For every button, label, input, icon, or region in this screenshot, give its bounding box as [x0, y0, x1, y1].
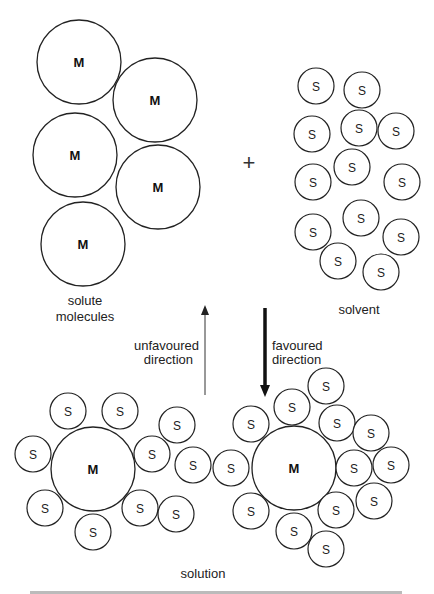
solute-molecule-label: M: [153, 180, 164, 195]
solvent-molecule-label: S: [355, 122, 363, 136]
favoured-label-line1: favoured: [272, 338, 323, 353]
solute-molecule: M: [33, 113, 117, 197]
solvent-molecules-group: SSSSSSSSSSSSS: [294, 68, 420, 290]
unfavoured-label-line2: direction: [144, 352, 193, 367]
solvent-molecule-label: S: [308, 128, 316, 142]
solvent-molecule: S: [344, 72, 380, 108]
solvent-molecule-label: S: [312, 80, 320, 94]
solvating-solvent-molecule-label: S: [322, 380, 330, 394]
solvating-solvent-molecule: S: [353, 415, 389, 451]
solute-label-line1: solute: [68, 293, 103, 308]
solvated-solute-molecule-label: M: [88, 462, 99, 477]
solvating-solvent-molecule: S: [50, 393, 86, 429]
solvent-molecule: S: [295, 214, 331, 250]
unfavoured-label-line1: unfavoured: [134, 338, 199, 353]
solvating-solvent-molecule-label: S: [288, 401, 296, 415]
solvating-solvent-molecule-label: S: [89, 526, 97, 540]
solute-molecule-label: M: [78, 237, 89, 252]
solvating-solvent-molecule: S: [75, 514, 111, 550]
solvating-solvent-molecule: S: [308, 531, 344, 567]
solvent-molecule: S: [341, 110, 377, 146]
solvated-solute-right: MSSSSSSSSSSSSS: [213, 368, 409, 567]
solvent-molecule: S: [295, 164, 331, 200]
solute-molecule: M: [113, 58, 197, 142]
solvent-molecule: S: [294, 116, 330, 152]
solute-label-line2: molecules: [56, 309, 115, 324]
solute-molecule-label: M: [74, 55, 85, 70]
solvating-solvent-molecule-label: S: [387, 459, 395, 473]
solvated-solute-left: MSSSSSSSSSS: [15, 393, 211, 550]
solvent-molecule-label: S: [357, 212, 365, 226]
solvating-solvent-molecule-label: S: [148, 448, 156, 462]
solvating-solvent-molecule-label: S: [136, 502, 144, 516]
solvating-solvent-molecule: S: [336, 450, 372, 486]
solvent-molecule: S: [320, 243, 356, 279]
solvent-label: solvent: [338, 302, 380, 317]
favoured-label-line2: direction: [272, 352, 321, 367]
solvating-solvent-molecule-label: S: [172, 508, 180, 522]
solvating-solvent-molecule-label: S: [350, 462, 358, 476]
solvent-molecule: S: [378, 113, 414, 149]
solution-label: solution: [181, 566, 226, 581]
solvating-solvent-molecule: S: [175, 447, 211, 483]
solvating-solvent-molecule: S: [319, 405, 355, 441]
solvating-solvent-molecule: S: [233, 406, 269, 442]
solvating-solvent-molecule-label: S: [247, 418, 255, 432]
solvating-solvent-molecule-label: S: [227, 462, 235, 476]
solvent-molecule-label: S: [358, 84, 366, 98]
solvating-solvent-molecule: S: [27, 490, 63, 526]
solvating-solvent-molecule: S: [102, 393, 138, 429]
solvation-diagram: MMMMM + SSSSSSSSSSSSS solute molecules s…: [0, 0, 434, 594]
solvating-solvent-molecule-label: S: [332, 504, 340, 518]
solvent-molecule-label: S: [309, 176, 317, 190]
solvating-solvent-molecule-label: S: [370, 495, 378, 509]
solvating-solvent-molecule-label: S: [64, 405, 72, 419]
solvating-solvent-molecule-label: S: [247, 505, 255, 519]
solvent-molecule-label: S: [392, 125, 400, 139]
solvent-molecule: S: [334, 149, 370, 185]
solvating-solvent-molecule: S: [159, 407, 195, 443]
solvating-solvent-molecule-label: S: [189, 459, 197, 473]
solvent-molecule-label: S: [334, 255, 342, 269]
solute-molecule-label: M: [70, 148, 81, 163]
solvated-solute-molecule: M: [51, 427, 135, 511]
solvent-molecule-label: S: [377, 266, 385, 280]
solute-molecule: M: [41, 202, 125, 286]
solvent-molecule-label: S: [309, 226, 317, 240]
solvating-solvent-molecule-label: S: [322, 543, 330, 557]
solvent-molecule-label: S: [398, 176, 406, 190]
solute-molecule: M: [37, 20, 121, 104]
solvating-solvent-molecule-label: S: [29, 448, 37, 462]
solvating-solvent-molecule: S: [356, 483, 392, 519]
solvating-solvent-molecule: S: [274, 389, 310, 425]
solvating-solvent-molecule-label: S: [116, 405, 124, 419]
solvating-solvent-molecule-label: S: [367, 427, 375, 441]
solvating-solvent-molecule: S: [308, 368, 344, 404]
plus-sign: +: [243, 150, 256, 175]
solvated-solute-molecule-label: M: [289, 461, 300, 476]
solvating-solvent-molecule: S: [276, 513, 312, 549]
solvating-solvent-molecule: S: [233, 493, 269, 529]
unfavoured-arrow: [201, 305, 209, 395]
solute-molecules-group: MMMMM: [33, 20, 200, 286]
solvent-molecule-label: S: [348, 161, 356, 175]
solvating-solvent-molecule-label: S: [290, 525, 298, 539]
solvating-solvent-molecule: S: [213, 450, 249, 486]
solute-molecule: M: [116, 145, 200, 229]
solvating-solvent-molecule: S: [318, 492, 354, 528]
solvating-solvent-molecule: S: [158, 496, 194, 532]
solvating-solvent-molecule: S: [15, 436, 51, 472]
solvating-solvent-molecule-label: S: [173, 419, 181, 433]
solvent-molecule: S: [363, 254, 399, 290]
solvating-solvent-molecule: S: [122, 490, 158, 526]
solvating-solvent-molecule-label: S: [333, 417, 341, 431]
solvating-solvent-molecule: S: [373, 447, 409, 483]
solute-molecule-label: M: [150, 93, 161, 108]
solvent-molecule: S: [298, 68, 334, 104]
solvent-molecule-label: S: [397, 231, 405, 245]
solvating-solvent-molecule-label: S: [41, 502, 49, 516]
solvent-molecule: S: [384, 164, 420, 200]
solvent-molecule: S: [343, 200, 379, 236]
favoured-arrow: [260, 308, 270, 397]
solvent-molecule: S: [383, 219, 419, 255]
